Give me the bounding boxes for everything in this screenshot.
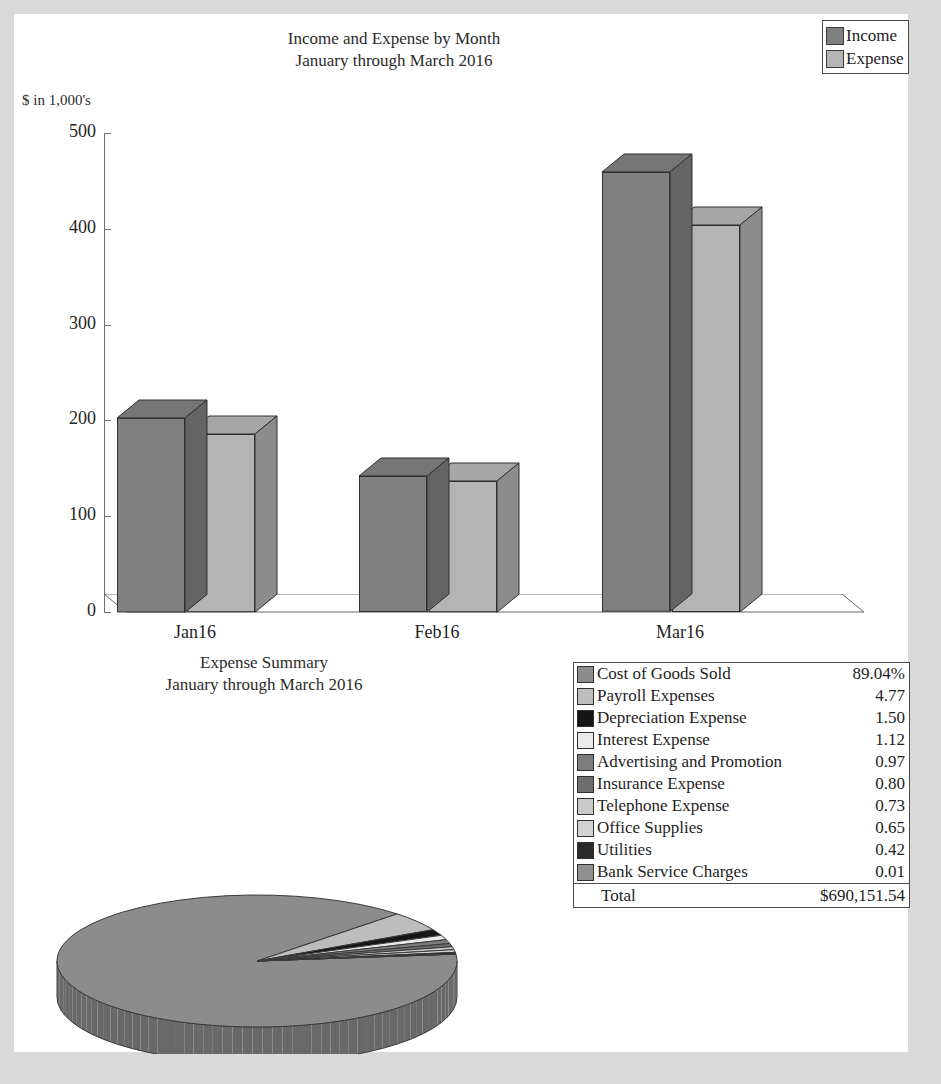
pie-slice-side	[92, 998, 98, 1037]
pie-slice-side	[61, 974, 63, 1013]
pie-slice-side	[86, 995, 91, 1034]
expense-category-label: Insurance Expense	[597, 775, 875, 793]
expense-category-label: Bank Service Charges	[597, 863, 875, 881]
pie-slice-side	[66, 980, 69, 1019]
pie-slice-side	[184, 1022, 193, 1054]
pie-slice-side	[140, 1015, 148, 1053]
legend-swatch	[577, 666, 594, 683]
y-axis-tick	[104, 133, 111, 134]
pie-slice-side	[423, 995, 428, 1034]
report-panel: Income and Expense by Month January thro…	[14, 14, 908, 1052]
pie-slice-side	[358, 1016, 367, 1054]
pie-slice-side	[349, 1018, 358, 1054]
total-value: $690,151.54	[820, 887, 907, 905]
legend-swatch	[577, 864, 594, 881]
y-axis-tick-label: 200	[26, 409, 96, 427]
bar-feb16-income[interactable]	[359, 458, 449, 612]
pie-chart-title: Expense Summary January through March 20…	[54, 652, 474, 696]
pie-slice-side	[149, 1016, 158, 1054]
y-axis-line	[104, 133, 105, 613]
legend-swatch	[577, 798, 594, 815]
pie-slice-side	[166, 1020, 175, 1054]
table-row[interactable]: Payroll Expenses4.77	[574, 685, 909, 707]
y-axis-tick-label: 300	[26, 314, 96, 332]
expense-category-label: Payroll Expenses	[597, 687, 875, 705]
y-axis-tick-label: 400	[26, 218, 96, 236]
expense-percent-value: 0.73	[875, 797, 907, 815]
table-row[interactable]: Telephone Expense0.73	[574, 795, 909, 817]
pie-slice-side	[448, 977, 451, 1016]
pie-slice-side	[118, 1008, 125, 1046]
y-axis-tick	[104, 516, 111, 517]
table-row[interactable]: Advertising and Promotion0.97	[574, 751, 909, 773]
pie-slice-side	[428, 992, 433, 1031]
pie-slice-side	[213, 1025, 223, 1054]
expense-legend-table: Cost of Goods Sold89.04%Payroll Expenses…	[573, 662, 910, 908]
expense-percent-value: 0.01	[875, 863, 907, 881]
pie-slice-side	[442, 983, 446, 1022]
legend-swatch	[577, 732, 594, 749]
expense-pie-chart	[42, 889, 542, 1049]
pie-slice-side	[292, 1025, 302, 1054]
y-axis-tick	[104, 229, 111, 230]
pie-slice-side	[125, 1011, 133, 1049]
expense-category-label: Utilities	[597, 841, 875, 859]
pie-slice-side	[397, 1006, 404, 1044]
pie-slice-side	[59, 971, 61, 1010]
pie-slice-side	[455, 967, 456, 1006]
pie-slice-side	[58, 968, 59, 1007]
pie-slice-side	[312, 1024, 322, 1054]
pie-slice-side	[374, 1012, 382, 1050]
pie-slice-side	[417, 998, 423, 1037]
pie-slice-side	[77, 990, 82, 1029]
table-row[interactable]: Interest Expense1.12	[574, 729, 909, 751]
pie-slice-side	[111, 1006, 118, 1044]
legend-swatch	[577, 688, 594, 705]
income-expense-bar-chart: Income and Expense by Month January thro…	[14, 14, 908, 634]
pie-slice-side	[194, 1024, 204, 1054]
table-row[interactable]: Insurance Expense0.80	[574, 773, 909, 795]
pie-slice-side	[382, 1010, 390, 1048]
total-label: Total	[577, 887, 820, 905]
pie-slice-side	[331, 1021, 340, 1054]
expense-category-label: Cost of Goods Sold	[597, 665, 853, 683]
pie-slice-side	[340, 1020, 349, 1054]
pie-slice-side	[390, 1008, 397, 1046]
table-row[interactable]: Cost of Goods Sold89.04%	[574, 663, 909, 685]
expense-category-label: Advertising and Promotion	[597, 753, 875, 771]
expense-percent-value: 0.97	[875, 753, 907, 771]
bar-jan16-income[interactable]	[117, 400, 207, 612]
pie-slice-side	[433, 989, 438, 1028]
expense-summary-section: Expense Summary January through March 20…	[14, 634, 908, 1052]
legend-swatch	[577, 710, 594, 727]
legend-swatch	[577, 842, 594, 859]
pie-slice-side	[438, 986, 442, 1025]
pie-slice-side	[157, 1018, 166, 1054]
pie-slice-side	[282, 1026, 292, 1054]
expense-category-label: Interest Expense	[597, 731, 875, 749]
expense-percent-value: 1.50	[875, 709, 907, 727]
pie-slice-side	[366, 1014, 374, 1052]
expense-percent-value: 0.42	[875, 841, 907, 859]
table-row[interactable]: Utilities0.42	[574, 839, 909, 861]
bar-mar16-income[interactable]	[602, 154, 692, 612]
table-row[interactable]: Depreciation Expense1.50	[574, 707, 909, 729]
legend-swatch	[577, 754, 594, 771]
pie-chart-title-line2: January through March 2016	[54, 674, 474, 696]
pie-slice-side	[262, 1027, 272, 1054]
pie-slice-side	[233, 1027, 243, 1054]
pie-slice-side	[203, 1025, 213, 1054]
y-axis-tick-label: 500	[26, 122, 96, 140]
pie-slice-side	[63, 977, 66, 1016]
pie-slice-side	[445, 980, 448, 1019]
y-axis-tick	[104, 325, 111, 326]
pie-chart-title-line1: Expense Summary	[54, 652, 474, 674]
report-page: Income and Expense by Month January thro…	[0, 0, 941, 1084]
table-row[interactable]: Office Supplies0.65	[574, 817, 909, 839]
y-axis-tick	[104, 612, 111, 613]
table-row[interactable]: Bank Service Charges0.01	[574, 861, 909, 883]
y-axis-tick-label: 0	[26, 601, 96, 619]
pie-slice-side	[404, 1003, 411, 1041]
pie-slice-side	[451, 974, 453, 1013]
pie-slice-side	[132, 1013, 140, 1051]
